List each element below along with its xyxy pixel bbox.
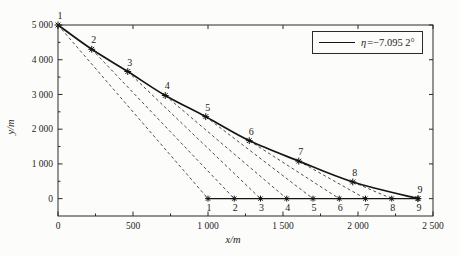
y-tick-label: 4 000 — [32, 55, 54, 65]
touchdown-point-label-3: 3 — [259, 202, 264, 213]
y-tick-label: 2 000 — [32, 124, 54, 134]
trajectory-point-label-2: 2 — [91, 34, 96, 45]
y-tick-label: 0 — [48, 194, 53, 204]
x-axis-title: x/m — [224, 234, 241, 245]
touchdown-point-label-2: 2 — [233, 202, 238, 213]
touchdown-point-label-4: 4 — [285, 202, 290, 213]
touchdown-point-label-6: 6 — [338, 202, 343, 213]
trajectory-point-label-6: 6 — [249, 126, 254, 137]
touchdown-point-label-7: 7 — [364, 202, 369, 213]
glide-line-2 — [92, 49, 235, 198]
glide-line-4 — [165, 95, 287, 198]
x-tick-label: 1 000 — [197, 221, 219, 231]
touchdown-point-label-9: 9 — [417, 202, 422, 213]
trajectory-point-marker-8 — [349, 179, 356, 186]
trajectory-point-marker-7 — [295, 158, 302, 165]
x-tick-label: 500 — [126, 221, 141, 231]
trajectory-point-marker-4 — [162, 92, 169, 99]
glide-line-1 — [58, 25, 208, 199]
legend-value: =−7.095 2° — [367, 37, 415, 48]
glide-line-6 — [249, 141, 339, 199]
x-tick-label: 2 000 — [347, 221, 369, 231]
touchdown-point-label-1: 1 — [207, 202, 212, 213]
legend-symbol: η — [361, 37, 366, 48]
legend: η=−7.095 2° — [312, 31, 423, 54]
x-tick-label: 2 500 — [422, 221, 444, 231]
trajectory-point-label-1: 1 — [58, 10, 63, 21]
glide-trajectory-figure: 05001 0001 5002 0002 50001 0002 0003 000… — [0, 0, 460, 256]
y-tick-label: 1 000 — [32, 159, 54, 169]
trajectory-point-marker-5 — [202, 113, 209, 120]
y-tick-label: 5 000 — [32, 20, 54, 30]
touchdown-point-label-5: 5 — [312, 202, 317, 213]
x-tick-label: 0 — [56, 221, 61, 231]
x-tick-label: 1 500 — [272, 221, 294, 231]
trajectory-point-label-4: 4 — [165, 80, 170, 91]
y-axis-title: y/m — [5, 119, 16, 136]
glide-line-3 — [128, 72, 261, 199]
trajectory-point-label-8: 8 — [352, 167, 357, 178]
trajectory-point-marker-6 — [246, 137, 253, 144]
trajectory-point-label-3: 3 — [127, 57, 132, 68]
trajectory-point-label-7: 7 — [298, 146, 303, 157]
y-tick-label: 3 000 — [32, 90, 54, 100]
trajectory-point-label-9: 9 — [418, 184, 423, 195]
trajectory-point-marker-3 — [124, 68, 131, 75]
trajectory-point-marker-2 — [88, 46, 95, 53]
trajectory-point-label-5: 5 — [205, 102, 210, 113]
legend-line-sample — [319, 42, 355, 43]
glide-line-5 — [206, 117, 313, 199]
touchdown-point-label-8: 8 — [390, 202, 395, 213]
